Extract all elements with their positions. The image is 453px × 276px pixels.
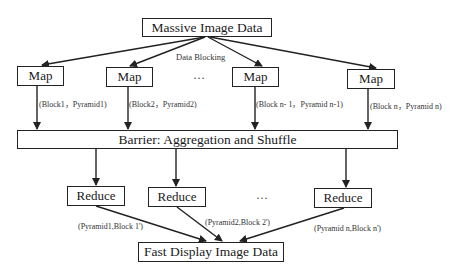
- barrier-label: Barrier: Aggregation and Shuffle: [119, 132, 297, 148]
- reduce-ellipsis: …: [256, 188, 269, 203]
- reduce-output-1: (Pyramid1,Block 1'): [78, 222, 143, 231]
- map-output-3: (Block n- 1，Pyramid n-1): [256, 98, 343, 109]
- map-box-4: Map: [347, 69, 395, 89]
- map-output-2: (Block2，Pyramid2): [129, 98, 197, 109]
- massive-image-data-box: Massive Image Data: [142, 18, 272, 37]
- reduce-output-3: (Pyramid n,Block n'): [314, 224, 381, 233]
- reduce-label: Reduce: [158, 189, 197, 205]
- reduce-box-1: Reduce: [67, 186, 125, 206]
- reduce-label: Reduce: [324, 190, 363, 206]
- reduce-output-2: (Pyramid2,Block 2'): [205, 218, 270, 227]
- fast-display-box: Fast Display Image Data: [138, 242, 284, 262]
- map-label: Map: [29, 68, 53, 84]
- map-output-4: (Block n，Pyramid n): [370, 100, 442, 111]
- map-box-3: Map: [232, 67, 279, 87]
- data-blocking-label: Data Blocking: [176, 52, 225, 62]
- reduce-label: Reduce: [77, 188, 116, 204]
- map-output-1: (Block1，Pyramid1): [39, 98, 107, 109]
- reduce-box-2: Reduce: [148, 187, 206, 207]
- map-box-1: Map: [17, 66, 64, 86]
- map-ellipsis: …: [193, 68, 206, 83]
- map-label: Map: [118, 69, 142, 85]
- fast-display-label: Fast Display Image Data: [144, 244, 278, 260]
- map-label: Map: [359, 71, 383, 87]
- map-label: Map: [244, 69, 268, 85]
- map-box-2: Map: [106, 67, 153, 87]
- massive-image-data-label: Massive Image Data: [152, 20, 263, 36]
- barrier-box: Barrier: Aggregation and Shuffle: [17, 130, 398, 149]
- reduce-box-3: Reduce: [314, 188, 372, 208]
